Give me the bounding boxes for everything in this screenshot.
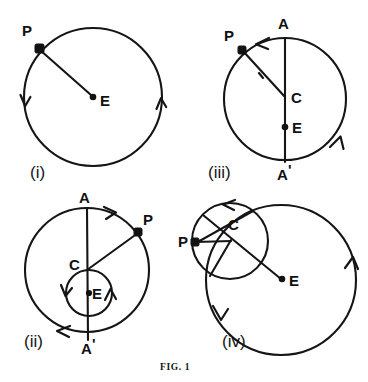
- panel-iii-point-P-marker: [238, 46, 246, 54]
- panel-i-radius-P-E: [40, 50, 91, 95]
- panel-iii-caption: (iii): [208, 163, 231, 182]
- panel-ii-radius-C-P: [87, 233, 138, 270]
- panel-ii-caption: (ii): [24, 332, 43, 351]
- panel-ii-point-P-marker: [134, 228, 142, 236]
- panel-ii-label-Aprime: A: [81, 340, 92, 357]
- panel-iii-arrow-top-icon: [256, 38, 269, 49]
- panel-iii-label-Aprime-mark: ': [288, 161, 292, 178]
- panel-ii-label-E: E: [92, 285, 102, 302]
- figure-caption: FIG. 1: [160, 362, 190, 372]
- panel-ii-arrow-outer-lower-left-icon: [57, 326, 70, 337]
- panel-iii-label-Aprime: A: [277, 166, 288, 183]
- panel-ii-label-C: C: [69, 256, 80, 273]
- panel-iv-label-E: E: [289, 272, 299, 289]
- panel-iii-label-A: A: [278, 15, 289, 32]
- panel-ii-label-Aprime-mark: ': [92, 335, 96, 352]
- panel-i-caption: (i): [30, 163, 45, 182]
- panel-iv-arrow-large-right-icon: [345, 257, 358, 269]
- panel-iv-label-C: C: [228, 216, 239, 233]
- panel-i-label-P: P: [22, 22, 32, 39]
- figure-container: P E (i) A P C E A ' (iii): [0, 0, 368, 382]
- panel-iii-label-E: E: [292, 119, 302, 136]
- panel-iv-chord-C-lower-left: [210, 240, 231, 276]
- panel-ii: A P C E A ' (ii): [24, 189, 153, 357]
- panel-iii-label-C: C: [291, 89, 302, 106]
- panel-iii-radius-C-P: [243, 51, 285, 97]
- panel-iii-label-P: P: [224, 27, 234, 44]
- panel-i: P E (i): [21, 22, 167, 182]
- panel-i-label-E: E: [100, 92, 110, 109]
- panel-ii-label-A: A: [79, 189, 90, 206]
- panel-iv-point-P-marker: [191, 238, 199, 246]
- panel-ii-label-P: P: [143, 211, 153, 228]
- panel-i-arrow-left-icon: [21, 95, 31, 106]
- panel-i-point-P-marker: [35, 44, 44, 53]
- panel-ii-diameter-A-Aprime: [87, 208, 88, 340]
- panel-i-point-E-marker: [90, 94, 97, 101]
- panel-iv-arrow-small-top-icon: [223, 200, 235, 210]
- panel-iv-point-E-marker: [279, 276, 286, 283]
- panel-iv-caption: (iv): [222, 332, 246, 351]
- panel-iv: P C E (iv): [178, 200, 358, 355]
- panel-iii-point-E-marker: [282, 124, 289, 131]
- panel-iii: A P C E A ' (iii): [208, 15, 346, 183]
- panel-iv-label-P: P: [178, 233, 188, 250]
